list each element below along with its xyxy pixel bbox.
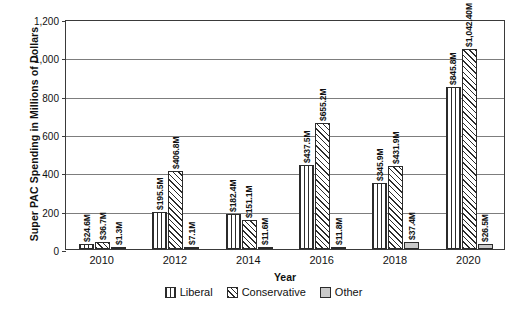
- y-tick-label: 200: [13, 207, 59, 218]
- bar-other-2020[interactable]: $26.5M: [478, 244, 493, 249]
- x-tick-label-2014: 2014: [212, 254, 285, 266]
- bar-other-2016[interactable]: $11.8M: [331, 247, 346, 249]
- plot-area: 02004006008001,0001,200 $24.6M$36.7M$1.3…: [65, 20, 505, 250]
- bar-conservative-2012[interactable]: $406.8M: [168, 171, 183, 249]
- bar-liberal-2012[interactable]: $195.5M: [152, 212, 167, 249]
- bar-liberal-2018[interactable]: $345.9M: [372, 183, 387, 249]
- x-tick-label-2012: 2012: [138, 254, 211, 266]
- y-tick-mark: [62, 251, 66, 252]
- bar-liberal-2016[interactable]: $437.5M: [299, 165, 314, 249]
- bar-liberal-2020[interactable]: $845.8M: [446, 87, 461, 249]
- bar-other-2018[interactable]: $37.4M: [404, 242, 419, 249]
- bar-value-label: $1,042.40M: [464, 3, 474, 47]
- bar-conservative-2018[interactable]: $431.9M: [388, 166, 403, 249]
- bar-value-label: $345.9M: [375, 148, 385, 180]
- y-tick-label: 0: [13, 246, 59, 257]
- bar-group: $182.4M$151.1M$11.6M: [213, 21, 286, 249]
- bar-conservative-2010[interactable]: $36.7M: [95, 242, 110, 249]
- bars-layer: $24.6M$36.7M$1.3M$195.5M$406.8M$7.1M$182…: [66, 21, 504, 249]
- bar-other-2010[interactable]: $1.3M: [111, 247, 126, 249]
- bar-value-label: $151.1M: [244, 186, 254, 218]
- y-tick-label: 800: [13, 92, 59, 103]
- bar-liberal-2014[interactable]: $182.4M: [226, 214, 241, 249]
- legend-item-liberal[interactable]: Liberal: [165, 286, 213, 298]
- bar-value-label: $24.6M: [82, 215, 92, 243]
- legend-item-other[interactable]: Other: [320, 286, 363, 298]
- x-tick-label-2016: 2016: [285, 254, 358, 266]
- chart-legend: LiberalConservativeOther: [0, 286, 527, 298]
- bar-liberal-2010[interactable]: $24.6M: [79, 244, 94, 249]
- x-tick-label-2020: 2020: [432, 254, 505, 266]
- legend-swatch-liberal: [165, 287, 176, 298]
- bar-group: $437.5M$655.2M$11.8M: [286, 21, 359, 249]
- bar-group: $845.8M$1,042.40M$26.5M: [433, 21, 506, 249]
- x-axis-title: Year: [65, 271, 505, 283]
- legend-swatch-conservative: [227, 287, 238, 298]
- x-tick-label-2010: 2010: [65, 254, 138, 266]
- bar-group: $195.5M$406.8M$7.1M: [139, 21, 212, 249]
- y-tick-label: 1,200: [13, 16, 59, 27]
- bar-conservative-2016[interactable]: $655.2M: [315, 123, 330, 249]
- bar-other-2014[interactable]: $11.6M: [258, 247, 273, 249]
- bar-value-label: $182.4M: [228, 180, 238, 212]
- x-tick-label-2018: 2018: [358, 254, 431, 266]
- bar-conservative-2014[interactable]: $151.1M: [242, 220, 257, 249]
- bar-value-label: $11.8M: [334, 217, 344, 244]
- bar-group: $345.9M$431.9M$37.4M: [359, 21, 432, 249]
- legend-label: Conservative: [242, 286, 306, 298]
- super-pac-spending-chart: Super PAC Spending in Millions of Dollar…: [0, 0, 527, 309]
- y-tick-label: 600: [13, 131, 59, 142]
- bar-value-label: $431.9M: [391, 132, 401, 164]
- bar-value-label: $406.8M: [171, 137, 181, 169]
- bar-value-label: $437.5M: [302, 131, 312, 163]
- bar-other-2012[interactable]: $7.1M: [184, 247, 199, 249]
- y-tick-label: 400: [13, 169, 59, 180]
- bar-conservative-2020[interactable]: $1,042.40M: [462, 49, 477, 249]
- bar-value-label: $26.5M: [480, 214, 490, 242]
- bar-value-label: $655.2M: [318, 89, 328, 121]
- y-tick-label: 1,000: [13, 54, 59, 65]
- bar-value-label: $37.4M: [407, 212, 417, 240]
- legend-label: Liberal: [180, 286, 213, 298]
- bar-value-label: $11.6M: [260, 217, 270, 244]
- bar-value-label: $36.7M: [98, 212, 108, 240]
- bar-value-label: $7.1M: [187, 222, 197, 245]
- bar-group: $24.6M$36.7M$1.3M: [66, 21, 139, 249]
- bar-value-label: $1.3M: [114, 222, 124, 245]
- legend-label: Other: [335, 286, 363, 298]
- bar-value-label: $195.5M: [155, 177, 165, 209]
- legend-item-conservative[interactable]: Conservative: [227, 286, 306, 298]
- bar-value-label: $845.8M: [448, 53, 458, 85]
- legend-swatch-other: [320, 287, 331, 298]
